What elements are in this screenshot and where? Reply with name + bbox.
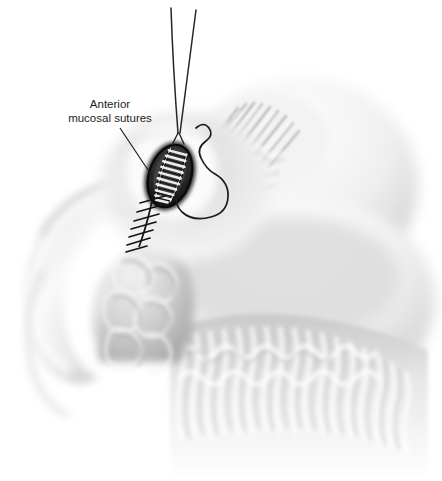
medical-illustration-figure: Anterior mucosal sutures — [0, 0, 442, 481]
illustration-canvas — [0, 0, 442, 481]
villous-mucosa — [170, 314, 428, 480]
